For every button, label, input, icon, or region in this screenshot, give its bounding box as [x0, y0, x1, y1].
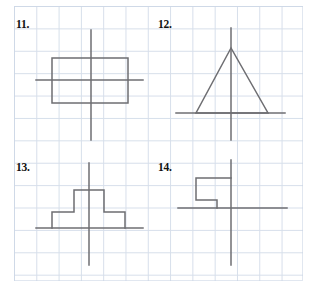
problem-14-zigzag-step — [196, 178, 231, 208]
problem-14-drawing — [0, 0, 315, 292]
problem-14-figure — [0, 0, 315, 292]
worksheet-page: 11. 12. 13. — [0, 0, 315, 292]
